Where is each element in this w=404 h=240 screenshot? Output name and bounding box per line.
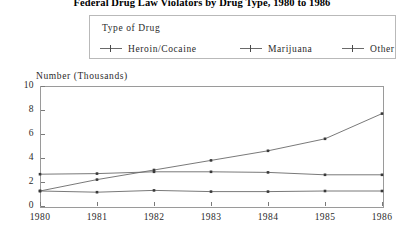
legend-item-label: Marijuana xyxy=(268,44,312,54)
legend-item-heroin-cocaine: Heroin/Cocaine xyxy=(100,42,197,56)
data-point-marker xyxy=(267,150,270,153)
data-point-marker xyxy=(39,173,42,176)
line-marker-icon xyxy=(240,44,262,54)
data-point-marker xyxy=(267,190,270,193)
y-tick-label: 6 xyxy=(4,128,34,138)
x-tick-label: 1986 xyxy=(361,212,403,222)
x-tick-label: 1981 xyxy=(76,212,118,222)
line-marker-icon xyxy=(100,44,122,54)
data-point-marker xyxy=(153,171,156,174)
data-point-marker xyxy=(267,171,270,174)
legend-item-label: Other xyxy=(370,44,395,54)
x-tick-label: 1984 xyxy=(247,212,289,222)
chart-legend: Type of Drug Heroin/Cocaine Marijuana Ot… xyxy=(89,15,396,59)
y-axis-label: Number (Thousands) xyxy=(36,71,128,81)
data-point-marker xyxy=(324,190,327,193)
x-tick-label: 1985 xyxy=(304,212,346,222)
data-point-marker xyxy=(96,178,99,181)
data-point-marker xyxy=(210,171,213,174)
data-point-marker xyxy=(39,190,42,193)
data-point-marker xyxy=(153,189,156,192)
x-tick-label: 1980 xyxy=(19,212,61,222)
legend-item-label: Heroin/Cocaine xyxy=(128,44,197,54)
legend-entries: Heroin/Cocaine Marijuana Other xyxy=(100,42,390,58)
data-point-marker xyxy=(324,138,327,141)
chart-lines xyxy=(40,86,382,206)
series-line-heroin-cocaine xyxy=(40,114,382,191)
legend-item-other: Other xyxy=(342,42,395,56)
x-tick-label: 1982 xyxy=(133,212,175,222)
x-tick-label: 1983 xyxy=(190,212,232,222)
data-point-marker xyxy=(210,190,213,193)
y-tick-mark xyxy=(41,206,45,207)
data-point-marker xyxy=(381,112,384,115)
y-tick-label: 4 xyxy=(4,152,34,162)
y-tick-label: 8 xyxy=(4,104,34,114)
data-point-marker xyxy=(324,174,327,177)
y-tick-label: 2 xyxy=(4,176,34,186)
legend-item-marijuana: Marijuana xyxy=(240,42,312,56)
legend-title: Type of Drug xyxy=(102,23,160,33)
y-tick-label: 10 xyxy=(4,80,34,90)
data-point-marker xyxy=(96,191,99,194)
data-point-marker xyxy=(381,174,384,177)
data-point-marker xyxy=(96,172,99,175)
x-tick-mark xyxy=(382,202,383,206)
data-point-marker xyxy=(381,190,384,193)
y-tick-label: 0 xyxy=(4,200,34,210)
line-marker-icon xyxy=(342,44,364,54)
data-point-marker xyxy=(210,159,213,162)
page-title: Federal Drug Law Violators by Drug Type,… xyxy=(0,0,404,8)
